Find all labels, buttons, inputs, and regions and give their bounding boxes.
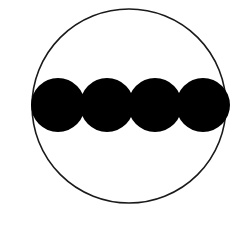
filled-circle-4 bbox=[176, 78, 230, 132]
filled-circle-3 bbox=[128, 78, 182, 132]
inner-circles-row bbox=[31, 78, 230, 132]
filled-circle-2 bbox=[80, 78, 134, 132]
diagram-canvas bbox=[0, 0, 237, 243]
filled-circle-1 bbox=[31, 78, 85, 132]
